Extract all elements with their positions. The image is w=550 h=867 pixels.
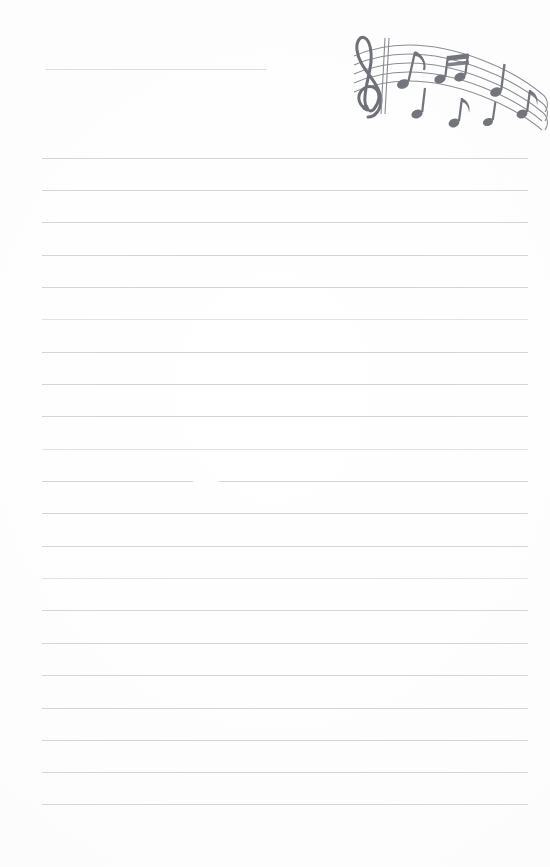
rule-line: [42, 772, 528, 773]
eighth-note-pair: [396, 52, 425, 91]
rule-line: [42, 158, 528, 159]
rule-line: [42, 643, 528, 644]
body-text: [0, 0, 1, 1]
rule-line: [42, 610, 528, 611]
rule-line: [42, 513, 528, 514]
rule-smudge: [193, 480, 219, 483]
staff-end-curl: [542, 94, 547, 130]
rule-line: [42, 190, 528, 191]
rule-line: [42, 319, 528, 320]
treble-clef-icon: [357, 37, 381, 117]
rule-line: [42, 578, 528, 579]
rule-line: [42, 708, 528, 709]
rule-line: [42, 481, 528, 482]
rule-line: [42, 222, 528, 223]
rule-line: [42, 449, 528, 450]
rule-line: [42, 740, 528, 741]
rule-line: [42, 416, 528, 417]
music-staff-svg: [336, 22, 550, 134]
rule-line: [42, 287, 528, 288]
lower-eighth-note: [447, 98, 469, 129]
notepaper-page: lined-notepaper: [0, 0, 550, 867]
flagged-eighth-note: [410, 88, 425, 120]
rule-line: [42, 352, 528, 353]
rule-line: [42, 804, 528, 805]
rule-line: [42, 255, 528, 256]
lower-right-note: [482, 102, 496, 128]
title-rule: [45, 69, 267, 70]
music-staff-illustration: [336, 22, 550, 134]
rule-line: [42, 384, 528, 385]
page-title: lined-notepaper: [0, 0, 1, 1]
rule-line: [42, 546, 528, 547]
rule-line: [42, 675, 528, 676]
